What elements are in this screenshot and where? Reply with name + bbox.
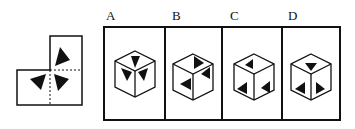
option-d-cube[interactable] — [291, 54, 331, 100]
triangle-icon — [30, 74, 46, 90]
option-d-label: D — [288, 9, 297, 22]
triangle-icon — [54, 74, 69, 91]
option-c-label: C — [230, 9, 239, 22]
triangle-icon — [55, 47, 70, 66]
option-a-cube[interactable] — [115, 51, 155, 97]
option-c-cube[interactable] — [234, 54, 274, 100]
option-b-cube[interactable] — [173, 54, 213, 100]
option-a-label: A — [106, 9, 115, 22]
cube-net — [17, 36, 82, 105]
option-b-label: B — [172, 9, 181, 22]
